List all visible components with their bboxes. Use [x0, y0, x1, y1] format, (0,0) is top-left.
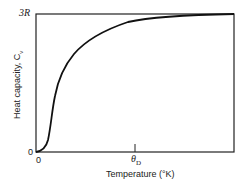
- y-tick-3r: 3R: [19, 8, 30, 18]
- y-axis-label: Heat capacity, Cv: [12, 30, 26, 140]
- heat-capacity-curve: [36, 14, 234, 152]
- y-axis-label-text: Heat capacity, C: [12, 54, 22, 119]
- y-axis-label-subscript: v: [18, 51, 24, 54]
- x-axis-label: Temperature (°K): [106, 169, 175, 179]
- y-tick-zero: 0: [28, 147, 33, 157]
- x-tick-theta-d: θD: [131, 154, 141, 168]
- theta-subscript: D: [136, 159, 141, 167]
- x-tick-zero: 0: [36, 155, 41, 165]
- plot-frame: [36, 14, 234, 152]
